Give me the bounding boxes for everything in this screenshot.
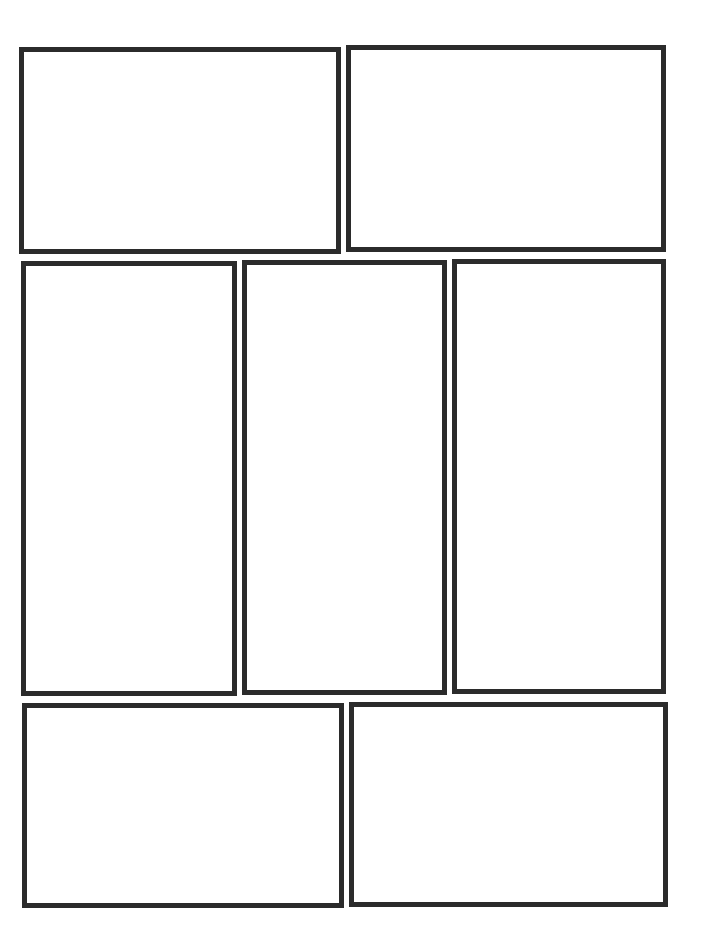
panel-row2-middle[interactable] [242,260,447,695]
panel-row2-right[interactable] [452,259,666,694]
panel-row3-left[interactable] [22,703,344,908]
panel-row1-right[interactable] [346,45,666,252]
panel-row1-left[interactable] [19,47,341,254]
panel-row2-left[interactable] [21,261,237,696]
panel-row3-right[interactable] [349,702,668,907]
comic-page [0,0,705,943]
